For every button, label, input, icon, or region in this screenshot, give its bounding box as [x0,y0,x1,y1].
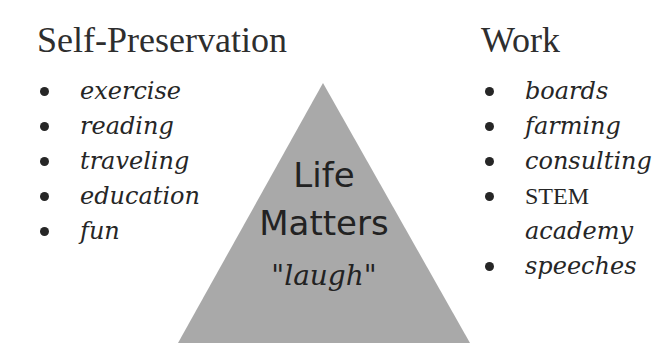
item-label: academy [525,217,633,245]
bullet-icon [485,192,494,201]
triangle-line-matters: Matters [178,203,470,243]
work-heading: Work [481,20,560,60]
list-item-continuation: academy [485,214,652,249]
list-item: consulting [485,144,652,179]
list-item: speeches [485,249,652,284]
item-label: farming [525,112,621,140]
item-label: consulting [525,147,652,175]
item-label: boards [525,77,608,105]
work-list: boards farming consulting STEM academy s… [485,74,652,284]
item-label: STEM [525,183,589,209]
triangle-line-laugh: "laugh" [178,258,470,294]
bullet-icon [485,122,494,131]
item-label: speeches [525,252,637,280]
bullet-icon [485,157,494,166]
bullet-icon [485,87,494,96]
triangle-line-life: Life [178,155,470,195]
list-item: boards [485,74,652,109]
list-item: STEM [485,179,652,214]
bullet-icon [485,262,494,271]
list-item: farming [485,109,652,144]
